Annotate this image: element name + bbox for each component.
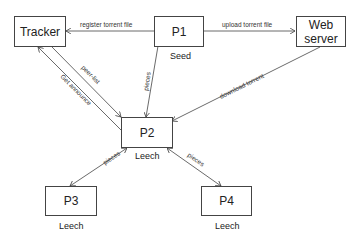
node-label: P4	[219, 194, 234, 208]
role-label-p3: Leech	[59, 221, 84, 231]
role-label-p2: Leech	[135, 151, 160, 161]
edge-p2-p4-pieces: pieces	[167, 148, 221, 186]
edge-peer-list: peer-list	[52, 47, 121, 117]
node-tracker: Tracker	[14, 16, 66, 47]
node-label-line1: Web	[309, 18, 333, 32]
edge-label: peer-list	[80, 64, 102, 86]
edge-upload-torrent-file: upload torrent file	[203, 21, 295, 31]
edge-label: upload torrent file	[222, 21, 273, 29]
edge-p2-p3-pieces: pieces	[70, 148, 127, 186]
node-label: P3	[64, 194, 79, 208]
node-p3: P3	[45, 186, 97, 216]
edge-download-torrent: download torrent	[172, 47, 320, 121]
edge-label: register torrent file	[80, 21, 133, 29]
node-label: Tracker	[20, 25, 60, 39]
edge-label: download torrent	[218, 72, 265, 100]
role-label-p1: Seed	[170, 51, 191, 61]
edge-label: pieces	[102, 149, 123, 167]
node-label: P1	[172, 25, 187, 39]
node-p2: P2	[121, 117, 173, 148]
role-label-p4: Leech	[215, 221, 240, 231]
edge-get-announce: Get announce	[38, 47, 121, 130]
edge-label: pieces	[186, 151, 207, 169]
node-label: P2	[140, 126, 155, 140]
node-p1: P1	[154, 16, 204, 47]
edge-label: Get announce	[59, 73, 93, 107]
node-webserver: Web server	[296, 16, 346, 47]
node-p4: P4	[201, 186, 252, 216]
edge-register-torrent-file: register torrent file	[66, 21, 154, 31]
edge-p1-p2-pieces: pieces	[142, 46, 158, 117]
node-label-line2: server	[304, 32, 337, 46]
